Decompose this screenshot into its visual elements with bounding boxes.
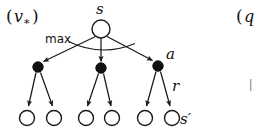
action-label: a (166, 45, 175, 63)
next-state-label: s′ (180, 110, 192, 128)
next-state-node-2[interactable] (47, 111, 62, 126)
max-operator-label: max (45, 32, 71, 46)
right-caption-variable: q (244, 7, 254, 26)
left-caption-subscript: ∗ (23, 15, 30, 28)
right-caption-open-paren: ( (236, 6, 243, 26)
action-node-3[interactable] (153, 61, 163, 71)
edge-a1-to-s2 (41, 73, 53, 107)
left-caption-close-paren: ) (32, 6, 39, 26)
edge-a3-to-s5 (147, 72, 157, 107)
action-node-1[interactable] (33, 62, 43, 72)
backup-diagram-canvas: ( v ∗ ) s max a r s′ ( q ∣ (0, 0, 260, 129)
backup-diagram-figure: ( v ∗ ) s max a r s′ ( q ∣ (0, 0, 260, 129)
next-state-node-3[interactable] (79, 111, 94, 126)
edge-a2-to-s3 (88, 74, 99, 107)
edge-a2-to-s4 (104, 74, 112, 107)
action-to-state-edges (29, 72, 171, 107)
clipped-right-glyph: ∣ (249, 78, 253, 93)
next-state-node-5[interactable] (138, 111, 153, 126)
state-node-root[interactable] (92, 20, 110, 38)
reward-label: r (172, 77, 180, 95)
action-node-2[interactable] (96, 63, 106, 73)
edge-a3-to-s6 (161, 72, 171, 107)
next-state-node-4[interactable] (105, 111, 120, 126)
root-state-label: s (96, 0, 104, 18)
next-state-node-6[interactable] (165, 111, 180, 126)
left-caption-open-paren: ( (6, 6, 13, 26)
edge-a1-to-s1 (29, 73, 37, 107)
next-state-node-1[interactable] (20, 111, 35, 126)
edge-s-to-a3 (107, 37, 153, 61)
left-caption-variable: v (14, 7, 23, 26)
